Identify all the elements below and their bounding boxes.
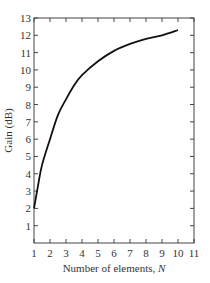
y-tick-label: 5 xyxy=(26,150,32,162)
y-tick-label: 8 xyxy=(26,99,32,111)
x-tick-label: 7 xyxy=(127,247,133,259)
x-tick-label: 9 xyxy=(159,247,165,259)
y-tick-label: 6 xyxy=(26,133,32,145)
x-tick-label: 1 xyxy=(31,247,37,259)
x-tick-label: 6 xyxy=(111,247,117,259)
y-tick-label: 7 xyxy=(26,116,32,128)
y-tick-label: 12 xyxy=(20,29,31,41)
y-tick-label: 3 xyxy=(26,185,32,197)
x-tick-label: 10 xyxy=(173,247,185,259)
y-tick-label: 10 xyxy=(20,64,32,76)
x-tick-label: 4 xyxy=(79,247,85,259)
chart: 123456789101112345678910111213Number of … xyxy=(0,0,210,283)
x-tick-label: 11 xyxy=(189,247,200,259)
y-tick-label: 2 xyxy=(26,202,32,214)
y-tick-label: 4 xyxy=(26,168,32,180)
x-axis-variable: N xyxy=(157,262,166,274)
y-tick-label: 1 xyxy=(26,220,32,232)
y-axis-title: Gain (dB) xyxy=(2,108,15,153)
x-axis-title: Number of elements, N xyxy=(63,262,166,274)
y-tick-label: 11 xyxy=(20,47,31,59)
x-tick-label: 8 xyxy=(143,247,149,259)
gain-curve xyxy=(34,30,178,208)
y-tick-label: 9 xyxy=(26,81,32,93)
y-tick-label: 13 xyxy=(20,12,32,24)
x-tick-label: 2 xyxy=(47,247,53,259)
x-tick-label: 5 xyxy=(95,247,101,259)
x-tick-label: 3 xyxy=(63,247,69,259)
